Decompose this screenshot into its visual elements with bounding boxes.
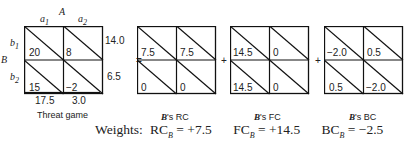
plus-sign-2: + — [315, 55, 321, 66]
threat-game-caption: Threat game — [37, 110, 88, 120]
fc-cell-11: 14.5 — [233, 48, 252, 58]
bc-cell-11: −2.0 — [327, 48, 347, 58]
plus-sign-1: + — [221, 55, 227, 66]
weight-rc: RCB = +7.5 — [150, 122, 212, 137]
row-sum-b1: 14.0 — [105, 36, 124, 46]
rc-cell-12: 7.5 — [180, 48, 194, 58]
weight-bc: BCB = −2.5 — [322, 122, 384, 137]
col-sum-a1: 17.5 — [35, 96, 54, 106]
col-sum-a2: 3.0 — [72, 96, 86, 106]
col-label-a1: a1 — [40, 13, 49, 27]
rc-cell-11: 7.5 — [141, 48, 155, 58]
weights-line: Weights: RCB = +7.5 FCB = +14.5 BCB = −2… — [95, 122, 383, 140]
row-label-b2: b2 — [10, 71, 19, 85]
player-b-label: B — [1, 54, 7, 65]
cell-b1-a1: 20 — [29, 48, 40, 58]
rc-caption: B's RC — [161, 112, 189, 122]
rc-cell-21: 0 — [141, 83, 147, 93]
col-label-a2: a2 — [78, 13, 87, 27]
weight-fc: FCB = +14.5 — [233, 122, 300, 137]
fc-cell-12: 0 — [273, 48, 279, 58]
fc-caption: B's FC — [254, 112, 281, 122]
row-label-b1: b1 — [10, 37, 19, 51]
player-a-label: A — [59, 6, 65, 17]
rc-matrix-lines — [137, 26, 217, 96]
bc-cell-21: 0.5 — [329, 83, 343, 93]
fc-cell-22: 0 — [273, 83, 279, 93]
row-sum-b2: 6.5 — [107, 72, 121, 82]
cell-b2-a2: −2 — [66, 83, 77, 93]
bc-caption: B's BC — [349, 112, 376, 122]
bc-cell-22: −2.0 — [366, 83, 386, 93]
cell-b1-a2: 8 — [66, 48, 72, 58]
fc-cell-21: 14.5 — [233, 83, 252, 93]
weights-label: Weights: — [95, 122, 143, 137]
bc-cell-12: 0.5 — [367, 48, 381, 58]
cell-b2-a1: 15 — [29, 83, 40, 93]
rc-cell-22: 0 — [180, 83, 186, 93]
